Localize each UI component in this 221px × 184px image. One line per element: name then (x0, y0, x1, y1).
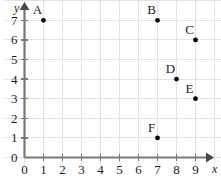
x-tick-label: 4 (97, 162, 104, 177)
x-tick-label: 6 (135, 162, 142, 177)
data-point-label: B (147, 2, 156, 17)
tick-marks (21, 20, 196, 161)
data-point-dot (155, 18, 160, 23)
y-tick-label: 1 (11, 130, 18, 145)
y-tick-label: 2 (11, 111, 18, 126)
data-point-label: A (33, 2, 43, 17)
y-tick-label: 3 (11, 91, 18, 106)
data-point-label: D (166, 61, 175, 76)
plot-canvas: 012345678901234567 xy ABCDEF (0, 0, 221, 184)
x-axis-label: x (211, 162, 218, 176)
data-point-dot (193, 96, 198, 101)
data-point-dot (41, 18, 46, 23)
data-point-dot (174, 77, 179, 82)
data-points: ABCDEF (33, 2, 198, 140)
x-tick-label: 1 (40, 162, 47, 177)
x-tick-label: 5 (116, 162, 123, 177)
x-tick-label: 3 (78, 162, 85, 177)
y-tick-label: 7 (11, 13, 18, 28)
x-axis-arrowhead (206, 153, 214, 163)
data-point-dot (193, 38, 198, 43)
x-tick-label: 8 (173, 162, 180, 177)
y-tick-label: 6 (11, 32, 18, 47)
x-tick-label: 2 (59, 162, 66, 177)
x-tick-label: 0 (21, 162, 28, 177)
x-tick-label: 7 (154, 162, 161, 177)
data-point-label: F (148, 120, 155, 135)
y-axis-label: y (13, 1, 20, 15)
y-axis-arrowhead (20, 2, 30, 10)
data-point: E (186, 81, 198, 101)
y-tick-label: 0 (11, 150, 18, 165)
data-point-dot (155, 136, 160, 141)
data-point-label: E (186, 81, 194, 96)
x-tick-label: 9 (192, 162, 199, 177)
scatter-plot: 012345678901234567 xy ABCDEF (0, 0, 221, 184)
y-tick-label: 4 (11, 72, 18, 87)
tick-labels: 012345678901234567 (11, 13, 199, 177)
data-point: F (148, 120, 160, 140)
y-tick-label: 5 (11, 52, 18, 67)
data-point-label: C (185, 22, 194, 37)
